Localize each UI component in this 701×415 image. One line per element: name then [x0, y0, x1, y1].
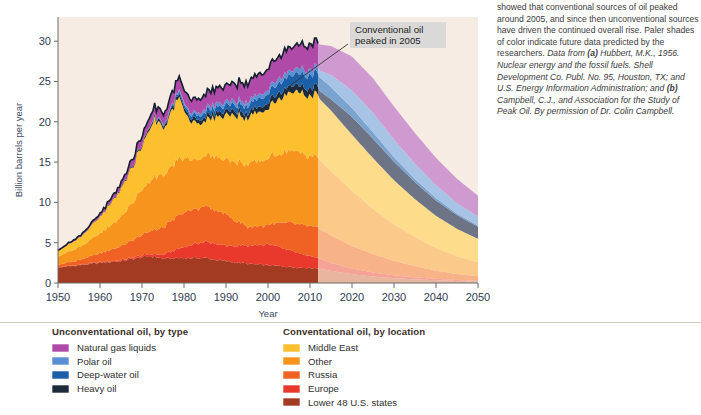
y-tick-label: 20: [39, 116, 51, 128]
legend-label-middle-east: Middle East: [308, 342, 358, 353]
legend-column-unconventional: Unconventational oil, by type Natural ga…: [52, 326, 188, 395]
legend-item-lower-48-us-states[interactable]: Lower 48 U.S. states: [283, 395, 425, 409]
legend: Unconventational oil, by type Natural ga…: [0, 322, 701, 415]
legend-label-natural-gas-liquids: Natural gas liquids: [77, 342, 156, 353]
legend-divider: [0, 322, 701, 323]
x-tick-label: 2050: [466, 291, 490, 303]
stacked-area-chart: 0510152025301950196019701980199020002010…: [0, 0, 500, 320]
x-tick-label: 2000: [256, 291, 280, 303]
legend-label-europe: Europe: [308, 383, 339, 394]
legend-label-deep-water-oil: Deep-water oil: [77, 369, 139, 380]
caption-ref-a: (a): [587, 48, 598, 58]
legend-swatch-polar-oil: [52, 357, 69, 365]
legend-label-heavy-oil: Heavy oil: [77, 383, 116, 394]
legend-heading-unconventional: Unconventational oil, by type: [52, 326, 188, 337]
figure-container: 0510152025301950196019701980199020002010…: [0, 0, 701, 415]
legend-swatch-deep-water-oil: [52, 371, 69, 379]
legend-swatch-heavy-oil: [52, 385, 69, 393]
x-tick-label: 2040: [424, 291, 448, 303]
x-tick-label: 1990: [214, 291, 238, 303]
legend-swatch-europe: [283, 385, 300, 393]
legend-item-europe[interactable]: Europe: [283, 382, 425, 396]
y-axis-title: Billion barrels per year: [13, 103, 24, 198]
legend-swatch-russia: [283, 371, 300, 379]
x-axis-title: Year: [258, 308, 277, 319]
legend-swatch-middle-east: [283, 344, 300, 352]
figure-caption: showed that conventional sources of oil …: [497, 2, 699, 118]
legend-item-other[interactable]: Other: [283, 355, 425, 369]
caption-source-1: Data from: [547, 48, 587, 58]
legend-label-russia: Russia: [308, 369, 337, 380]
x-tick-label: 1970: [130, 291, 154, 303]
legend-column-conventional: Conventational oil, by location Middle E…: [283, 326, 425, 409]
legend-item-heavy-oil[interactable]: Heavy oil: [52, 382, 188, 396]
legend-item-middle-east[interactable]: Middle East: [283, 341, 425, 355]
legend-item-deep-water-oil[interactable]: Deep-water oil: [52, 368, 188, 382]
legend-item-russia[interactable]: Russia: [283, 368, 425, 382]
x-tick-label: 2010: [298, 291, 322, 303]
legend-item-natural-gas-liquids[interactable]: Natural gas liquids: [52, 341, 188, 355]
y-tick-label: 30: [39, 35, 51, 47]
legend-label-polar-oil: Polar oil: [77, 356, 112, 367]
annotation-line-2: peaked in 2005: [355, 35, 421, 46]
legend-label-lower-48-us-states: Lower 48 U.S. states: [308, 397, 397, 408]
legend-item-polar-oil[interactable]: Polar oil: [52, 355, 188, 369]
y-tick-label: 10: [39, 196, 51, 208]
legend-heading-conventional: Conventational oil, by location: [283, 326, 425, 337]
y-tick-label: 15: [39, 156, 51, 168]
x-tick-label: 1980: [172, 291, 196, 303]
legend-swatch-other: [283, 357, 300, 365]
caption-source-3: Campbell, C.J., and Association for the …: [497, 95, 679, 117]
legend-swatch-natural-gas-liquids: [52, 344, 69, 352]
y-tick-label: 0: [45, 277, 51, 289]
annotation-line-1: Conventional oil: [355, 24, 423, 35]
y-tick-label: 5: [45, 237, 51, 249]
chart-svg: 0510152025301950196019701980199020002010…: [0, 0, 500, 320]
caption-ref-b: (b): [667, 83, 678, 93]
y-tick-label: 25: [39, 75, 51, 87]
x-tick-label: 1950: [46, 291, 70, 303]
x-tick-label: 2030: [382, 291, 406, 303]
legend-label-other: Other: [308, 356, 332, 367]
legend-swatch-lower-48-us-states: [283, 398, 300, 406]
x-tick-label: 2020: [340, 291, 364, 303]
x-tick-label: 1960: [88, 291, 112, 303]
